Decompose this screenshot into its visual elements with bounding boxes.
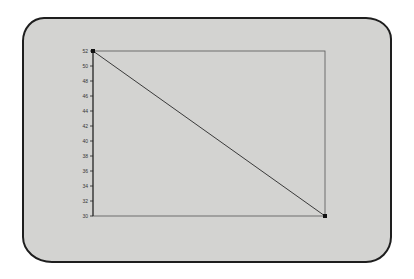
y-tick-label: 34 <box>82 183 88 189</box>
data-series <box>91 49 327 218</box>
line-chart: 525048464442403836343230 <box>0 0 414 279</box>
y-tick-label: 52 <box>82 48 88 54</box>
y-tick-label: 40 <box>82 138 88 144</box>
y-tick-label: 50 <box>82 63 88 69</box>
data-point-marker <box>91 49 95 53</box>
data-point-marker <box>323 214 327 218</box>
y-tick-label: 38 <box>82 153 88 159</box>
series-line <box>93 51 325 216</box>
y-tick-label: 36 <box>82 168 88 174</box>
y-axis: 525048464442403836343230 <box>82 48 93 219</box>
y-tick-label: 46 <box>82 93 88 99</box>
y-tick-label: 48 <box>82 78 88 84</box>
y-tick-label: 30 <box>82 213 88 219</box>
y-tick-label: 42 <box>82 123 88 129</box>
y-tick-label: 44 <box>82 108 88 114</box>
y-tick-label: 32 <box>82 198 88 204</box>
